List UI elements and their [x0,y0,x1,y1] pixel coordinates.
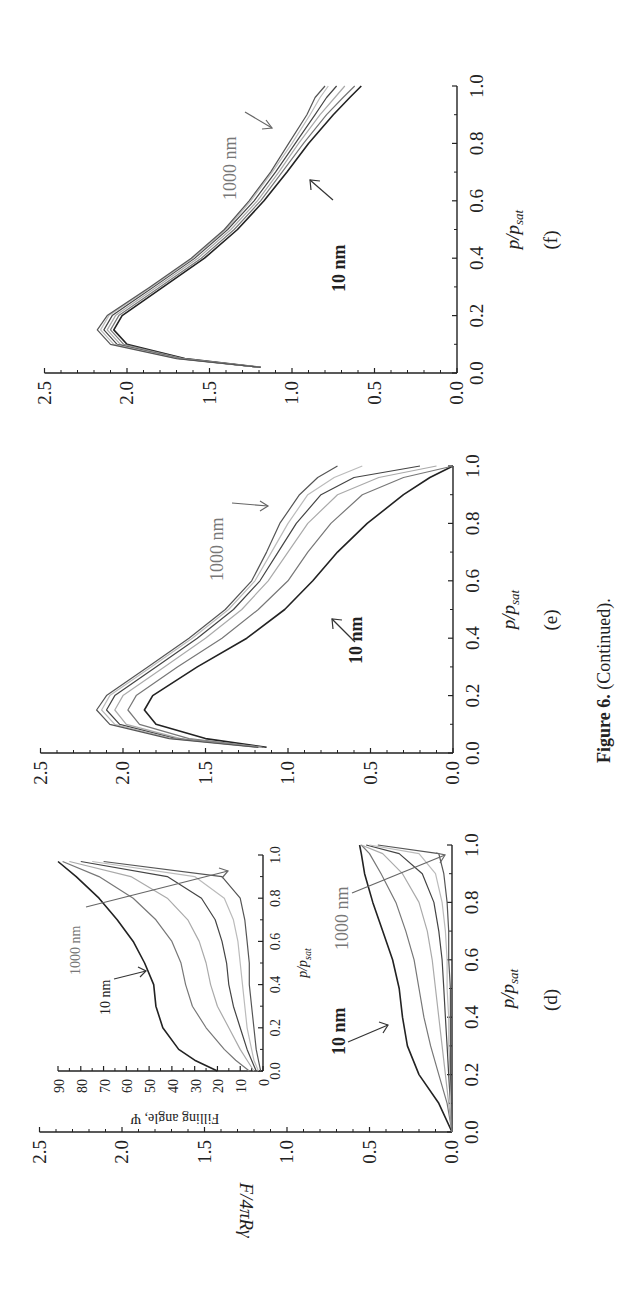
curve-1000nm [97,466,338,747]
p-axis-title: p/psat [295,948,313,979]
value-tick-label: 1.5 [199,381,220,405]
p-axis-title: p/psat [498,589,522,631]
value-tick-label: 2.0 [112,761,133,785]
p-axis-title: p/psat [502,209,526,251]
curve-10nm [360,845,452,1132]
value-tick-label: 2.0 [116,381,137,405]
p-tick-label: 0.2 [462,684,483,708]
annot-e-1000nm: 1000 nm [207,517,227,581]
value-tick-label: 2.5 [29,1140,50,1164]
curve-r5 [101,86,329,367]
value-tick-label: 1.5 [194,1140,215,1164]
p-tick-label: 0.8 [461,891,482,915]
caption-rest: (Continued). [594,598,615,694]
value-tick-label: 0.5 [359,1140,380,1164]
annot-inset-10nm: 10 nm [98,980,113,1016]
annot-e-10nm: 10 nm [346,616,366,664]
value-tick-label: 20 [211,1079,226,1093]
value-tick-label: 90 [52,1079,67,1093]
p-tick-label: 1.0 [466,74,487,98]
p-tick-label: 0.2 [461,1063,482,1087]
figure-caption: Figure 6. (Continued). [594,598,615,763]
p-tick-label: 1.0 [461,833,482,857]
p-tick-label: 0.2 [466,304,487,328]
panel-label-d: (d) [540,989,562,1011]
curve-r2 [111,86,355,367]
value-tick-label: 30 [189,1079,204,1093]
value-tick-label: 2.0 [111,1140,132,1164]
p-tick-label: 0.2 [268,1019,283,1037]
curve-r2 [63,862,250,1072]
p-tick-label: 1.0 [462,454,483,478]
annotation-arrows [86,112,445,1042]
p-tick-label: 0.6 [462,569,483,593]
figure-6-continued: 0.00.51.01.52.02.50.00.20.40.60.81.0p/ps… [0,0,642,1299]
annot-inset-1000nm: 1000 nm [68,926,83,976]
value-tick-label: 2.5 [34,381,55,405]
value-tick-label: 40 [166,1079,181,1093]
value-tick-label: 80 [75,1079,90,1093]
curve-r3 [107,86,345,367]
panel-label-f: (f) [540,231,562,250]
annot-d-1000nm: 1000 nm [332,886,352,950]
p-tick-label: 0.8 [462,512,483,536]
p-tick-label: 0.4 [461,1005,482,1029]
caption-bold: Figure 6. [594,694,614,763]
value-tick-label: 50 [143,1079,158,1093]
value-tick-label: 1.0 [277,761,298,785]
panel-f-chart: 0.00.51.01.52.02.50.00.20.40.60.81.0p/ps… [34,74,527,405]
curve-r4 [81,862,256,1072]
annot-d-10nm: 10 nm [329,1007,349,1055]
value-tick-label: 1.0 [281,381,302,405]
p-tick-label: 0.4 [462,626,483,650]
p-tick-label: 0.4 [466,246,487,270]
p-tick-label: 0.0 [461,1120,482,1144]
curve-r4 [107,466,421,747]
p-tick-label: 0.8 [466,132,487,156]
panel-d-inset-chart: 01020304050607080900.00.20.40.60.81.0p/p… [52,846,313,1093]
annot-f-1000nm: 1000 nm [220,136,240,200]
y-axis-title: F/4πRγ [236,1182,257,1239]
curve-1000nm [97,86,325,367]
p-tick-label: 0.6 [268,933,283,951]
p-tick-label: 0.0 [466,361,487,385]
panel-label-e: (e) [540,609,562,630]
value-tick-label: 0.0 [441,1140,462,1164]
p-tick-label: 0.0 [462,741,483,765]
value-tick-label: 70 [98,1079,113,1093]
value-tick-label: 0.5 [364,381,385,405]
p-tick-label: 0.8 [268,889,283,907]
value-tick-label: 2.5 [30,761,51,785]
inset-y-axis-title: Filling angle, Ψ [130,1111,219,1126]
curve-r5 [92,862,258,1072]
value-tick-label: 1.0 [276,1140,297,1164]
p-axis-title: p/psat [497,968,521,1010]
p-tick-label: 0.0 [268,1062,283,1080]
p-tick-label: 0.6 [461,948,482,972]
p-tick-label: 1.0 [268,846,283,864]
value-tick-label: 1.5 [195,761,216,785]
p-tick-label: 0.6 [466,189,487,213]
curve-r3 [115,466,437,747]
value-tick-label: 10 [234,1079,249,1093]
value-tick-label: 0.5 [360,761,381,785]
panel-e-chart: 0.00.51.01.52.02.50.00.20.40.60.81.0p/ps… [30,454,523,785]
p-tick-label: 0.4 [268,976,283,994]
value-tick-label: 60 [120,1079,135,1093]
value-tick-label: 0.0 [442,761,463,785]
annot-f-10nm: 10 nm [329,244,349,292]
value-tick-label: 0.0 [446,381,467,405]
curve-r3 [69,862,254,1072]
